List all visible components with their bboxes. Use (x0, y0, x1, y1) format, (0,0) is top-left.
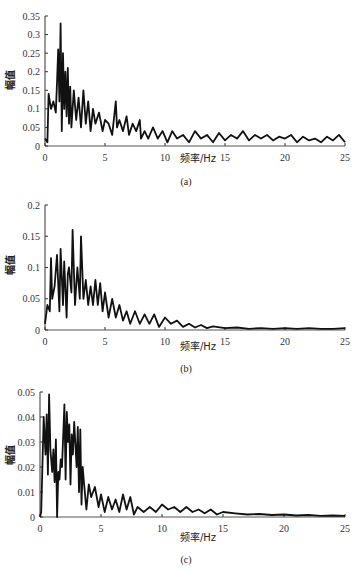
x-tick-label: 25 (340, 523, 350, 534)
x-tick-label: 15 (220, 152, 230, 163)
y-tick-label: 0.02 (18, 462, 36, 473)
y-tick-label: 0.35 (23, 11, 41, 22)
y-tick-label: 0.03 (18, 437, 36, 448)
y-tick-label: 0 (35, 325, 40, 336)
x-tick-label: 0 (43, 152, 48, 163)
spectrum-line (45, 230, 345, 329)
y-tick-label: 0 (30, 512, 35, 523)
chart-panel-a: 00.050.10.150.20.250.30.350510152025幅值频率… (4, 11, 350, 189)
panel-caption: (b) (180, 363, 192, 375)
x-tick-label: 5 (103, 336, 108, 347)
y-tick-label: 0.01 (18, 487, 36, 498)
x-tick-label: 5 (99, 523, 104, 534)
panel-caption: (c) (180, 554, 191, 566)
x-tick-label: 5 (103, 152, 108, 163)
y-tick-label: 0.2 (28, 200, 41, 211)
x-tick-label: 20 (279, 523, 289, 534)
spectrum-line (40, 395, 345, 518)
y-tick-label: 0.05 (18, 387, 36, 398)
y-tick-label: 0.05 (23, 122, 41, 133)
x-tick-label: 0 (38, 523, 43, 534)
y-tick-label: 0.1 (28, 262, 41, 273)
spectrum-line (45, 23, 345, 142)
x-tick-label: 20 (280, 152, 290, 163)
y-tick-label: 0 (35, 141, 40, 152)
y-tick-label: 0.2 (28, 66, 41, 77)
y-tick-label: 0.1 (28, 103, 41, 114)
x-axis-label: 频率/Hz (180, 531, 216, 543)
x-tick-label: 20 (280, 336, 290, 347)
x-tick-label: 25 (340, 336, 350, 347)
spectrum-figure: 00.050.10.150.20.250.30.350510152025幅值频率… (0, 0, 354, 572)
chart-panel-c: 00.010.020.030.040.050510152025幅值频率/Hz(c… (4, 387, 350, 567)
y-tick-label: 0.04 (18, 412, 36, 423)
y-tick-label: 0.05 (23, 293, 41, 304)
chart-panel-b: 00.050.10.150.20510152025幅值频率/Hz(b) (4, 200, 350, 376)
x-tick-label: 0 (43, 336, 48, 347)
y-tick-label: 0.25 (23, 48, 41, 59)
x-tick-label: 10 (160, 336, 170, 347)
x-tick-label: 10 (160, 152, 170, 163)
panel-caption: (a) (180, 176, 191, 188)
y-axis-label: 幅值 (4, 445, 16, 465)
y-axis-label: 幅值 (4, 255, 16, 275)
x-tick-label: 10 (157, 523, 167, 534)
y-tick-label: 0.15 (23, 231, 41, 242)
y-tick-label: 0.15 (23, 85, 41, 96)
x-tick-label: 15 (218, 523, 228, 534)
y-axis-label: 幅值 (4, 70, 16, 90)
x-tick-label: 25 (340, 152, 350, 163)
x-axis-label: 频率/Hz (180, 152, 216, 164)
y-tick-label: 0.3 (28, 29, 41, 40)
x-tick-label: 15 (220, 336, 230, 347)
x-axis-label: 频率/Hz (180, 340, 216, 352)
